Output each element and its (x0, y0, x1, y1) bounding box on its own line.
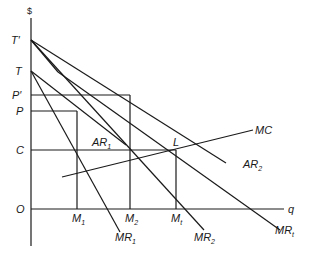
c-label: C (16, 144, 24, 156)
mr1-label: MR1 (115, 231, 136, 245)
mrt-label: MRt (275, 224, 295, 238)
ar2-label: AR2 (242, 158, 262, 172)
ar1-label: AR1 (91, 136, 111, 150)
x-axis-label: q (288, 203, 295, 215)
ar2-curve (31, 40, 226, 163)
point-l-label: L (173, 136, 179, 148)
p-label: P (16, 105, 24, 117)
y-axis-label: $ (27, 6, 32, 16)
ar1-curve (31, 71, 126, 145)
m1-label: M1 (72, 212, 85, 226)
mr2-curve (31, 40, 204, 230)
mt-label: Mt (171, 212, 183, 226)
price-discrimination-diagram: $ T′ T P′ P C O q M1 M2 Mt AR1 AR2 MC MR… (0, 0, 312, 258)
mr2-label: MR2 (194, 231, 215, 245)
t-prime-label: T′ (11, 34, 21, 46)
p-prime-label: P′ (12, 89, 22, 101)
m2-label: M2 (125, 212, 138, 226)
mc-curve (62, 130, 253, 177)
mc-label: MC (255, 124, 272, 136)
origin-label: O (16, 203, 25, 215)
t-label: T (15, 65, 23, 77)
